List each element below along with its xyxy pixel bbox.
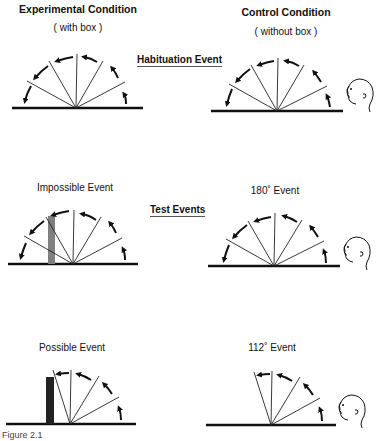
impossible-event-diagram (8, 210, 138, 264)
180-event-diagram (208, 213, 340, 266)
experimental-habituation-diagram (12, 54, 143, 108)
infant-face-icon (339, 395, 365, 428)
infant-face-icon (347, 79, 373, 112)
control-habituation-diagram (211, 58, 343, 111)
112-event-diagram (206, 371, 336, 425)
possible-event-diagram (6, 370, 136, 424)
diagram-canvas (0, 0, 379, 441)
box-object (46, 377, 54, 424)
infant-face-icon (344, 237, 370, 270)
